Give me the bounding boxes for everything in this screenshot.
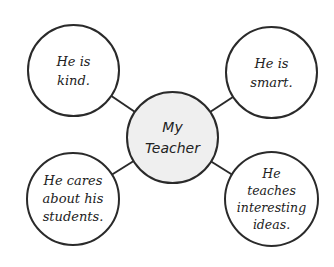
bubble-label: He teaches interesting ideas. — [237, 165, 306, 233]
center-bubble: My Teacher — [126, 91, 219, 184]
bubble-label: He is smart. — [250, 54, 292, 92]
bubble-bottom-left: He cares about his students. — [26, 152, 120, 246]
bubble-label: He cares about his students. — [43, 172, 104, 226]
bubble-label: He is kind. — [57, 52, 91, 90]
bubble-top-left: He is kind. — [27, 24, 120, 117]
bubble-bottom-right: He teaches interesting ideas. — [224, 151, 319, 247]
bubble-top-right: He is smart. — [225, 26, 318, 119]
center-label: My Teacher — [145, 117, 200, 159]
